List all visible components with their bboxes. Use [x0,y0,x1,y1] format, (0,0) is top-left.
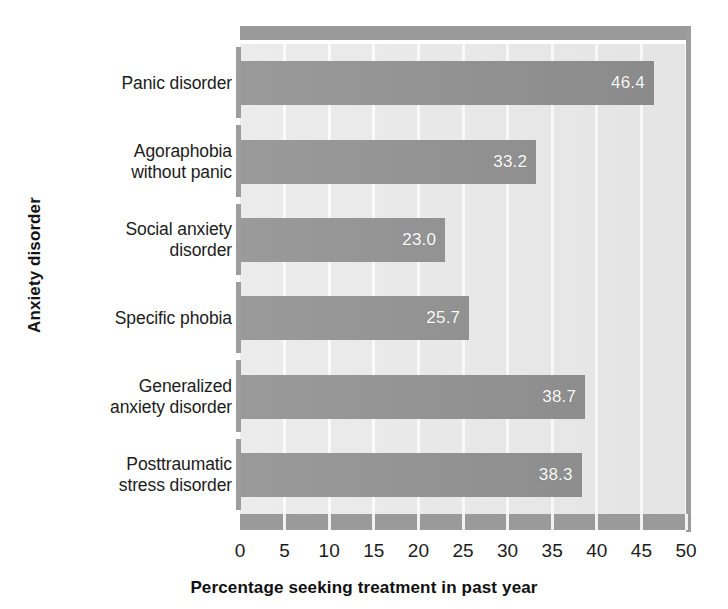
gridline-x-25 [462,44,465,514]
y-axis-strip-segment [236,282,241,353]
x-tick-label-10: 10 [309,540,349,562]
axis-tick-gap-35 [551,514,554,530]
x-tick-label-5: 5 [265,540,305,562]
plot-right-band [686,26,691,532]
y-axis-strip-segment [236,47,241,118]
x-axis-title: Percentage seeking treatment in past yea… [0,578,728,598]
category-label-column: Panic disorderAgoraphobiawithout panicSo… [40,48,232,518]
plot-area: 46.433.223.025.738.738.3 [236,26,690,532]
gridline-x-10 [328,44,331,514]
gridline-x-30 [506,44,509,514]
category-label-line: without panic [131,162,232,182]
x-tick-label-20: 20 [398,540,438,562]
bar: 38.3 [240,453,582,497]
plot-top-band [240,26,690,40]
bar: 25.7 [240,296,469,340]
plot-canvas: 46.433.223.025.738.738.3 [240,44,686,514]
gridline-x-20 [417,44,420,514]
category-label: Social anxietydisorder [40,219,232,261]
bar: 23.0 [240,218,445,262]
x-axis-band [240,514,691,530]
gridline-x-35 [551,44,554,514]
y-axis-strip-segment [236,360,241,431]
bar-value-label: 23.0 [402,230,445,250]
x-tick-label-35: 35 [532,540,572,562]
category-label-line: Posttraumatic [126,454,232,474]
bar: 46.4 [240,61,654,105]
category-label-line: Panic disorder [122,73,232,93]
axis-tick-gap-15 [372,514,375,530]
bar-value-label: 46.4 [611,73,654,93]
axis-tick-gap-45 [640,514,643,530]
gridline-x-45 [640,44,643,514]
bar-value-label: 25.7 [426,308,469,328]
gridline-x-40 [595,44,598,514]
y-axis-strip-segment [236,204,241,275]
category-label-line: Agoraphobia [134,141,232,161]
bar-value-label: 38.7 [542,387,585,407]
category-label-line: Social anxiety [125,219,232,239]
x-tick-label-45: 45 [621,540,661,562]
x-tick-label-30: 30 [488,540,528,562]
gridline-x-5 [283,44,286,514]
category-label: Generalizedanxiety disorder [40,376,232,418]
bar-value-label: 33.2 [493,152,536,172]
axis-tick-gap-30 [506,514,509,530]
bar: 38.7 [240,375,585,419]
x-tick-label-50: 50 [666,540,706,562]
axis-tick-gap-5 [283,514,286,530]
category-label: Panic disorder [40,73,232,94]
x-tick-label-25: 25 [443,540,483,562]
x-tick-label-40: 40 [577,540,617,562]
category-label-line: Specific phobia [115,308,232,328]
axis-tick-gap-10 [328,514,331,530]
axis-tick-gap-40 [595,514,598,530]
bar-value-label: 38.3 [539,465,582,485]
bar: 33.2 [240,140,536,184]
y-axis-strip-segment [236,439,241,510]
category-label-line: disorder [170,240,232,260]
gridline-x-15 [372,44,375,514]
category-label: Posttraumaticstress disorder [40,454,232,496]
axis-tick-gap-50 [685,514,688,530]
category-label-line: anxiety disorder [110,397,232,417]
category-label: Specific phobia [40,308,232,329]
category-label-line: stress disorder [119,475,232,495]
category-label-line: Generalized [139,376,232,396]
x-tick-label-0: 0 [220,540,260,562]
bar-chart-figure: Anxiety disorder Panic disorderAgoraphob… [0,0,728,609]
x-axis-tick-labels: 05101520253035404550 [236,540,696,568]
x-tick-label-15: 15 [354,540,394,562]
category-label: Agoraphobiawithout panic [40,141,232,183]
y-axis-strip-segment [236,125,241,196]
axis-tick-gap-25 [462,514,465,530]
axis-tick-gap-20 [417,514,420,530]
